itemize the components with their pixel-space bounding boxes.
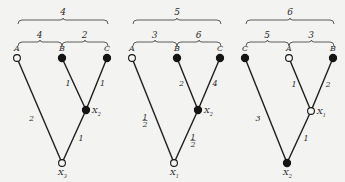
right-sub-brace-label: 2 bbox=[81, 30, 88, 40]
leaf-label: C bbox=[217, 44, 223, 53]
right-sub-brace bbox=[289, 40, 334, 46]
tree-1: 4422111ABCX2X3 bbox=[13, 7, 110, 179]
right-sub-brace bbox=[177, 40, 221, 46]
edge-label: 4 bbox=[211, 79, 217, 88]
leaf-label: A bbox=[13, 44, 20, 53]
leaf-label: B bbox=[58, 44, 65, 53]
left-sub-brace bbox=[18, 40, 62, 46]
inner-node-label: X2 bbox=[91, 106, 101, 117]
top-brace bbox=[246, 18, 334, 24]
edge-label: 2 bbox=[324, 80, 330, 89]
edge-label: 2 bbox=[178, 79, 184, 88]
inner-node-label: X2 bbox=[203, 106, 213, 117]
filled-node-icon bbox=[58, 54, 65, 61]
filled-node-icon bbox=[173, 54, 180, 61]
top-brace-label: 5 bbox=[174, 7, 180, 17]
edge-label: 1 bbox=[100, 79, 105, 88]
edge-leaf-to-root bbox=[17, 58, 62, 163]
edge-label-denominator: 2 bbox=[189, 140, 195, 149]
root-node-label: X3 bbox=[57, 168, 67, 179]
left-sub-brace bbox=[133, 40, 177, 46]
open-node-icon bbox=[286, 55, 293, 62]
leaf-label: A bbox=[128, 44, 135, 53]
open-node-icon bbox=[308, 108, 315, 115]
edge-label-denominator: 2 bbox=[141, 120, 147, 129]
edge-label: 2 bbox=[28, 114, 34, 123]
filled-node-icon bbox=[103, 54, 110, 61]
open-node-icon bbox=[171, 160, 178, 167]
phylogenetic-trees-diagram: 4422111ABCX2X3536122412ABCX2X16533121CAB… bbox=[0, 0, 345, 182]
edge-leaf-to-root bbox=[245, 58, 287, 163]
leaf-label: B bbox=[329, 44, 336, 53]
top-brace bbox=[133, 18, 221, 24]
root-node-label: X1 bbox=[169, 168, 179, 179]
edge-leaf-to-root bbox=[132, 58, 174, 163]
right-sub-brace-label: 6 bbox=[196, 30, 202, 40]
filled-node-icon bbox=[194, 106, 201, 113]
edge-label: 1 bbox=[65, 79, 70, 88]
left-sub-brace-label: 3 bbox=[152, 30, 158, 40]
leaf-label: C bbox=[242, 44, 248, 53]
leaf-label: A bbox=[285, 44, 292, 53]
filled-node-icon bbox=[241, 54, 248, 61]
left-sub-brace bbox=[246, 40, 289, 46]
edge-label: 3 bbox=[255, 114, 260, 123]
right-sub-brace-label: 3 bbox=[308, 30, 314, 40]
tree-2: 536122412ABCX2X1 bbox=[128, 7, 223, 179]
filled-node-icon bbox=[216, 54, 223, 61]
left-sub-brace-label: 4 bbox=[36, 30, 43, 40]
inner-node-label: X1 bbox=[316, 107, 326, 118]
filled-node-icon bbox=[329, 54, 336, 61]
top-brace-label: 6 bbox=[287, 7, 293, 17]
leaf-label: B bbox=[173, 44, 180, 53]
left-sub-brace-label: 5 bbox=[264, 30, 270, 40]
root-node-label: X2 bbox=[282, 168, 292, 179]
open-node-icon bbox=[14, 55, 21, 62]
top-brace-label: 4 bbox=[59, 7, 66, 17]
filled-node-icon bbox=[283, 159, 290, 166]
top-brace bbox=[18, 18, 108, 24]
edge-label: 1 bbox=[303, 134, 308, 143]
edge-label: 1 bbox=[291, 80, 296, 89]
tree-3: 6533121CABX1X2 bbox=[241, 7, 336, 179]
leaf-label: C bbox=[104, 44, 110, 53]
open-node-icon bbox=[59, 160, 66, 167]
edge-label: 1 bbox=[78, 134, 83, 143]
filled-node-icon bbox=[82, 106, 89, 113]
right-sub-brace bbox=[62, 40, 108, 46]
open-node-icon bbox=[129, 55, 136, 62]
